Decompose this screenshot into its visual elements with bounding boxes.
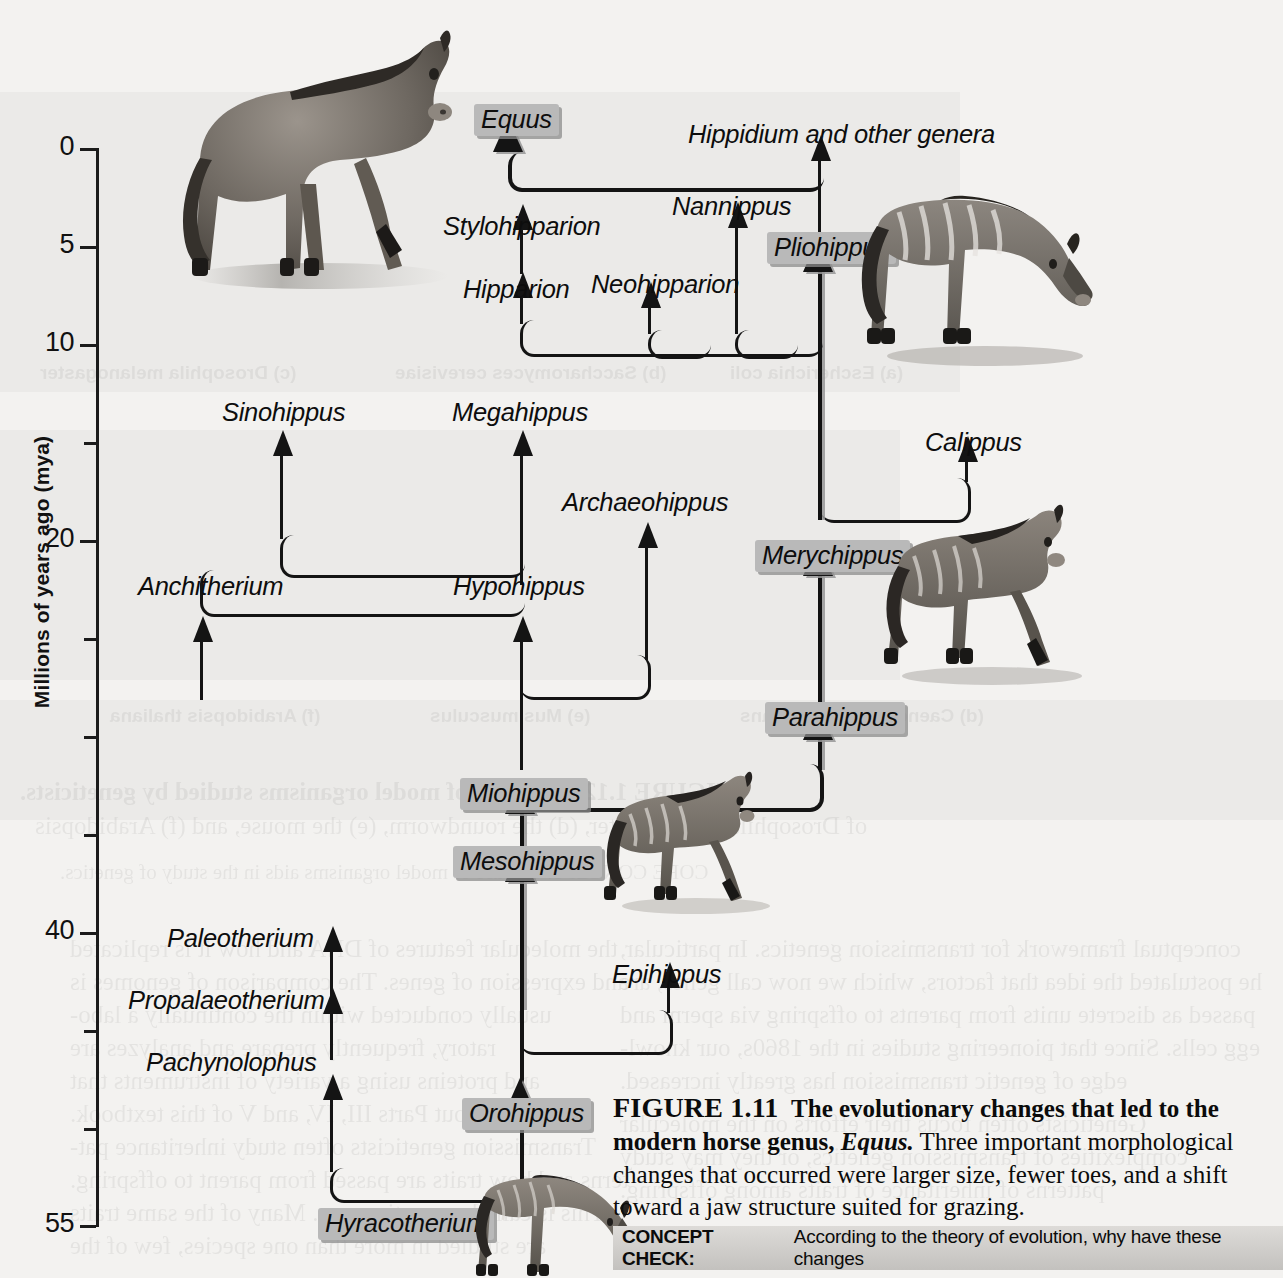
- taxon-parahippus[interactable]: Parahippus: [765, 702, 905, 734]
- axis-tick-0: [80, 148, 96, 151]
- branch-paleotherium-stem: [330, 948, 333, 996]
- axis-title: Millions of years ago (mya): [30, 422, 54, 722]
- bleed-text: (c) Drosophila melanogaster: [40, 362, 297, 384]
- taxon-mesohippus[interactable]: Mesohippus: [453, 846, 602, 878]
- taxon-hippidium[interactable]: Hippidium and other genera: [688, 120, 995, 149]
- concept-check-text: According to the theory of evolution, wh…: [794, 1226, 1283, 1270]
- taxon-miohippus[interactable]: Miohippus: [460, 778, 588, 810]
- axis-tick-55: [80, 1225, 96, 1228]
- figure-title-line2: modern horse genus,: [613, 1128, 841, 1155]
- branch-propalaeotherium-stem: [330, 1010, 333, 1060]
- bleed-text: Transmission geneticists often study inh…: [70, 1133, 596, 1161]
- illustration-modern-horse: [140, 8, 480, 358]
- axis-label-55: 55: [45, 1208, 74, 1239]
- figure-caption: FIGURE 1.11 The evolutionary changes tha…: [613, 1090, 1281, 1224]
- trunk-parahippus-merychippus: [818, 575, 822, 705]
- elbow-nannippus: [735, 330, 798, 359]
- axis-tick-20: [80, 540, 96, 543]
- axis-label-40: 40: [45, 915, 74, 946]
- bleed-text: (b) Saccharomyces cerevisiae: [395, 362, 666, 384]
- branch-calippus-stem: [965, 460, 968, 482]
- taxon-hyracotherium[interactable]: Hyracotherium: [318, 1208, 494, 1240]
- axis-tick-5: [80, 246, 96, 249]
- taxon-propalaeotherium[interactable]: Propalaeotherium: [128, 986, 325, 1015]
- y-axis-line: [96, 148, 99, 1227]
- bleed-text: (e) Mus musculus: [430, 705, 590, 727]
- taxon-calippus[interactable]: Calippus: [925, 428, 1022, 457]
- figure-number: FIGURE 1.11: [613, 1092, 779, 1123]
- arrow-hypohippus: [513, 616, 533, 642]
- bleed-text: egg cells. Since that pioneering studies…: [620, 1034, 1260, 1062]
- illustration-zebra-grazing: [855, 160, 1115, 380]
- branch-parahippus-stem: [818, 740, 822, 770]
- taxon-nannippus[interactable]: Nannippus: [672, 192, 791, 221]
- taxon-equus[interactable]: Equus: [474, 104, 559, 136]
- taxon-merychippus[interactable]: Merychippus: [755, 540, 910, 572]
- taxon-pachynolophus[interactable]: Pachynolophus: [146, 1048, 316, 1077]
- arrow-pachynolophus: [323, 1074, 343, 1100]
- arrow-paleotherium: [323, 926, 343, 952]
- branch-sinohippus-stem: [280, 455, 283, 539]
- arrow-archaeohippus: [638, 522, 658, 548]
- taxon-hypohippus[interactable]: Hypohippus: [453, 572, 585, 601]
- concept-check-bar: CONCEPT CHECK: According to the theory o…: [613, 1226, 1283, 1270]
- arrow-sinohippus: [273, 430, 293, 456]
- concept-check-label: CONCEPT CHECK:: [622, 1226, 787, 1270]
- taxon-neohipparion[interactable]: Neohipparion: [591, 270, 739, 299]
- branch-epihippus-stem: [667, 985, 670, 1013]
- figure-title-genus: Equus.: [841, 1128, 914, 1155]
- axis-tick-50: [84, 1128, 96, 1131]
- illustration-merychippus-horse: [880, 498, 1110, 698]
- axis-label-5: 5: [59, 229, 74, 260]
- taxon-anchitherium[interactable]: Anchitherium: [138, 572, 283, 601]
- trunk-merychippus-pliohippus: [818, 240, 822, 520]
- elbow-neohipparion: [648, 330, 711, 359]
- arrow-anchitherium: [193, 616, 213, 642]
- taxon-hipparion[interactable]: Hipparion: [463, 275, 569, 304]
- elbow-hypohippus-archaeohippus: [520, 655, 651, 700]
- bleed-text: (a) Escherichia coli: [730, 362, 903, 384]
- bleed-text: passed as discrete units from parents to…: [620, 1001, 1256, 1029]
- taxon-pliohippus[interactable]: Pliohippus: [767, 232, 896, 264]
- elbow-pliohippus-equus: [508, 152, 824, 192]
- taxon-megahippus[interactable]: Megahippus: [452, 398, 588, 427]
- branch-neohipparion-stem: [648, 308, 651, 334]
- taxon-stylohipparion[interactable]: Stylohipparion: [443, 212, 600, 241]
- bleed-text: (f) Arabidopsis thaliana: [110, 705, 320, 727]
- axis-tick-40: [80, 932, 96, 935]
- bleed-text: the molecular features of DNA and how it…: [70, 935, 618, 963]
- elbow-merychippus-calippus: [820, 478, 971, 523]
- bleed-text: conceptual framework for transmission ge…: [620, 935, 1241, 963]
- figure-title-line1: The evolutionary changes that led to the: [791, 1095, 1219, 1122]
- trunk-orohippus-mesohippus: [520, 880, 524, 1010]
- branch-pachynolophus-stem: [330, 1100, 333, 1172]
- bleed-text: CORE CONCEPT: The use of model organisms…: [60, 860, 709, 885]
- taxon-archaeohippus[interactable]: Archaeohippus: [562, 488, 728, 517]
- axis-label-10: 10: [45, 327, 74, 358]
- axis-tick-10: [80, 344, 96, 347]
- taxon-orohippus[interactable]: Orohippus: [462, 1098, 591, 1130]
- branch-anchitherium-down: [200, 640, 203, 700]
- axis-label-20: 20: [45, 523, 74, 554]
- elbow-orohippus-epihippus: [520, 1010, 673, 1055]
- axis-tick-15: [84, 442, 96, 445]
- axis-tick-30: [84, 736, 96, 739]
- taxon-paleotherium[interactable]: Paleotherium: [167, 924, 314, 953]
- taxon-epihippus[interactable]: Epihippus: [612, 960, 721, 989]
- axis-tick-25: [84, 638, 96, 641]
- bleed-text: of Drosophila melanogaster, (d) the roun…: [35, 812, 867, 840]
- branch-archaeohippus-stem: [645, 548, 648, 660]
- taxon-sinohippus[interactable]: Sinohippus: [222, 398, 345, 427]
- elbow-hyracotherium-left: [330, 1168, 525, 1203]
- arrow-megahippus: [513, 430, 533, 456]
- axis-tick-35: [84, 834, 96, 837]
- axis-tick-45: [84, 1030, 96, 1033]
- axis-label-0: 0: [59, 131, 74, 162]
- arrow-propalaeotherium: [323, 988, 343, 1014]
